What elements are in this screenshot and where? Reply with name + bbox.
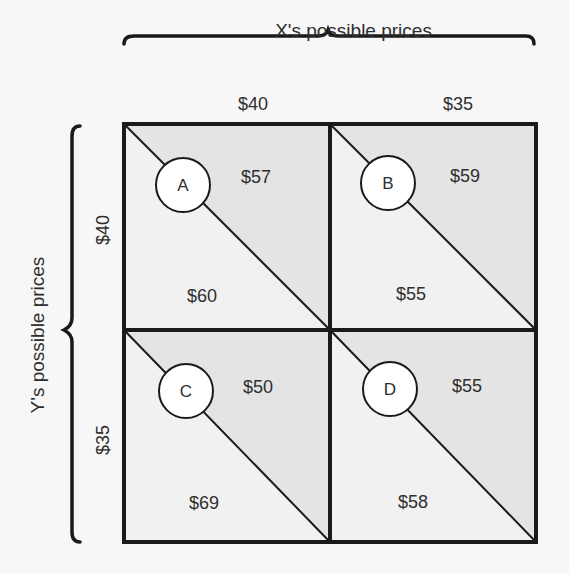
y-axis-brace	[64, 126, 80, 542]
cell-c-label: C	[180, 382, 192, 402]
column-label-40: $40	[203, 94, 303, 115]
column-label-35: $35	[408, 94, 508, 115]
cell-d-upper-payoff: $55	[452, 376, 482, 397]
row-label-35: $35	[93, 425, 114, 455]
payoff-matrix-grid	[0, 0, 569, 574]
y-axis-title: Y's possible prices	[27, 257, 49, 414]
cell-c-lower-payoff: $69	[189, 493, 219, 514]
row-label-40: $40	[93, 215, 114, 245]
x-axis-title: X's possible prices	[0, 20, 569, 42]
cell-b-lower-payoff: $55	[396, 284, 426, 305]
cell-c-upper-payoff: $50	[243, 377, 273, 398]
cell-a-upper-payoff: $57	[241, 167, 271, 188]
cell-b-label: B	[382, 174, 393, 194]
cell-a-lower-payoff: $60	[187, 286, 217, 307]
cell-a-label: A	[177, 176, 188, 196]
cell-d-label: D	[384, 380, 396, 400]
cell-d-lower-payoff: $58	[398, 492, 428, 513]
cell-b-upper-payoff: $59	[450, 166, 480, 187]
